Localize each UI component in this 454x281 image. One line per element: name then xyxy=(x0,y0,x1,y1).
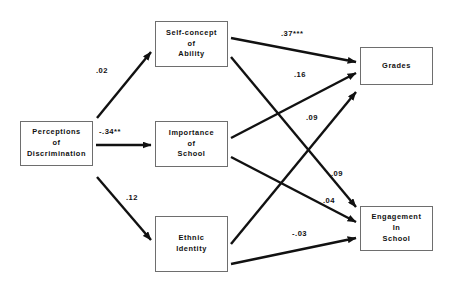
node-self-concept-of-ability: Self-conceptofAbility xyxy=(155,21,228,67)
edge-coefficient-selfconcept-to-engagement: .09 xyxy=(331,169,343,178)
node-label-line: of xyxy=(52,138,60,149)
node-label-line: Grades xyxy=(382,61,411,72)
node-label-line: In xyxy=(393,223,401,234)
node-label-line: Discrimination xyxy=(27,149,86,160)
node-label-line: of xyxy=(187,139,195,150)
node-label-line: School xyxy=(178,149,206,160)
node-label-line: Importance xyxy=(169,128,214,139)
node-label-line: Ability xyxy=(178,49,204,60)
edge-disc-to-ethnic xyxy=(97,177,151,240)
node-label-line: Engagement xyxy=(372,212,422,223)
edge-coefficient-disc-to-ethnic: .12 xyxy=(126,193,138,202)
edge-coefficient-importance-to-engagement: .04 xyxy=(323,196,335,205)
node-label-line: School xyxy=(383,234,411,245)
node-ethnic-identity: EthnicIdentity xyxy=(155,216,228,272)
node-label-line: Perceptions xyxy=(32,127,80,138)
node-label-line: of xyxy=(187,39,195,50)
node-grades: Grades xyxy=(360,47,433,85)
edge-disc-to-selfconcept xyxy=(97,52,151,118)
node-perceptions-of-discrimination: PerceptionsofDiscrimination xyxy=(20,121,93,166)
edge-coefficient-disc-to-selfconcept: .02 xyxy=(96,66,108,75)
edge-selfconcept-to-grades xyxy=(231,38,356,62)
node-label-line: Ethnic xyxy=(179,233,205,244)
edge-ethnic-to-engagement xyxy=(231,238,356,264)
edge-coefficient-disc-to-importance: -.34** xyxy=(99,127,121,136)
edge-coefficient-ethnic-to-engagement: -.03 xyxy=(292,229,307,238)
edge-coefficient-importance-to-grades: .16 xyxy=(294,70,306,79)
edge-coefficient-selfconcept-to-grades: .37*** xyxy=(281,29,303,38)
node-label-line: Identity xyxy=(176,244,207,255)
node-label-line: Self-concept xyxy=(166,28,217,39)
edge-coefficient-ethnic-to-grades: .09 xyxy=(306,113,318,122)
node-importance-of-school: ImportanceofSchool xyxy=(155,121,228,167)
edge-importance-to-grades xyxy=(231,73,356,138)
node-engagement-in-school: EngagementInSchool xyxy=(360,206,433,251)
edge-selfconcept-to-engagement xyxy=(231,57,356,207)
